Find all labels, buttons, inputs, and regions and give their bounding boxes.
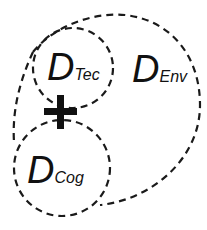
env-main-symbol: D: [132, 48, 159, 90]
tec-main-symbol: D: [47, 46, 74, 88]
env-domain-boundary-left: [14, 52, 33, 142]
tec-subscript: Tec: [74, 66, 99, 83]
diagram-canvas: [0, 0, 207, 230]
env-domain-label: DEnv: [132, 50, 187, 88]
cog-domain-label: DCog: [27, 151, 84, 189]
env-subscript: Env: [159, 68, 187, 85]
tec-domain-label: DTec: [47, 48, 100, 86]
cog-subscript: Cog: [54, 169, 83, 186]
cog-main-symbol: D: [27, 149, 54, 191]
